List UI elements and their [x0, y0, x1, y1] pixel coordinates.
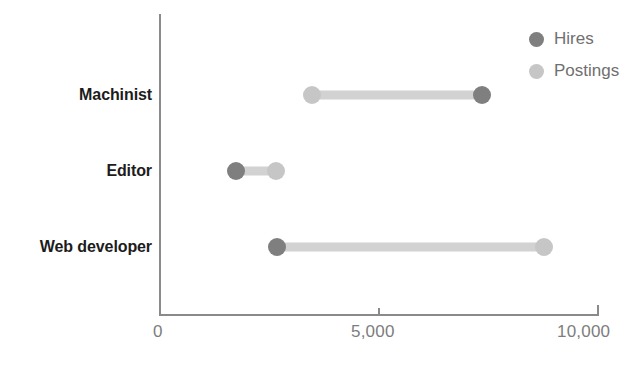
- legend: Hires Postings: [529, 23, 619, 87]
- y-axis-label-editor: Editor: [106, 162, 152, 180]
- x-axis-label-5000: 5,000: [351, 322, 395, 342]
- x-axis-label-10000: 10,000: [557, 322, 610, 342]
- y-axis-label-web-developer: Web developer: [40, 238, 152, 256]
- legend-label-hires: Hires: [554, 29, 594, 49]
- hires-dot-editor[interactable]: [227, 162, 245, 180]
- hires-dot-machinist[interactable]: [473, 86, 491, 104]
- postings-dot-machinist[interactable]: [303, 86, 321, 104]
- x-axis-tick-0: [159, 305, 161, 315]
- legend-label-postings: Postings: [554, 61, 619, 81]
- circle-marker-icon: [529, 64, 544, 79]
- circle-marker-icon: [529, 32, 544, 47]
- postings-dot-web-developer[interactable]: [535, 238, 553, 256]
- y-axis-line: [159, 14, 161, 316]
- postings-dot-editor[interactable]: [267, 162, 285, 180]
- legend-item-postings[interactable]: Postings: [529, 55, 619, 87]
- x-axis-tick-5000: [378, 308, 380, 315]
- dumbbell-chart: 0 5,000 10,000 Machinist Editor Web deve…: [0, 0, 643, 369]
- x-axis-label-0: 0: [153, 322, 163, 342]
- x-axis-tick-10000: [597, 305, 599, 316]
- connector-machinist: [312, 91, 482, 100]
- legend-item-hires[interactable]: Hires: [529, 23, 619, 55]
- connector-web-developer: [277, 243, 544, 252]
- hires-dot-web-developer[interactable]: [268, 238, 286, 256]
- y-axis-label-machinist: Machinist: [79, 86, 152, 104]
